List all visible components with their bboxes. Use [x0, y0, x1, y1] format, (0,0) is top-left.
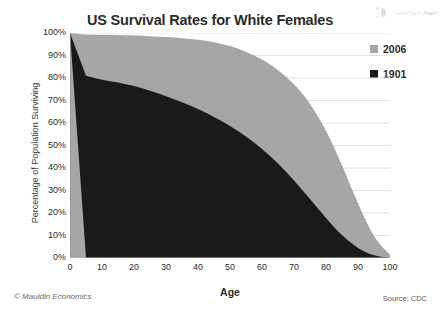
y-tick-label: 70%	[26, 96, 66, 105]
logo-text: TransTech Alert	[392, 10, 437, 16]
y-tick-label: 20%	[26, 208, 66, 217]
x-tick-label: 20	[129, 263, 139, 272]
x-tick-label: 10	[97, 263, 107, 272]
logo-mark-icon	[376, 6, 389, 19]
x-tick-label: 0	[67, 263, 72, 272]
x-tick-label: 40	[193, 263, 203, 272]
x-tick-label: 30	[161, 263, 171, 272]
chart-figure: US Survival Rates for White Females Tran…	[0, 0, 441, 314]
x-tick-label: 70	[289, 263, 299, 272]
area-chart-svg	[70, 33, 390, 258]
x-tick-label: 60	[257, 263, 267, 272]
x-tick-label: 90	[353, 263, 363, 272]
y-tick-label: 90%	[26, 51, 66, 60]
copyright-credit: © Mauldin Economics	[14, 292, 91, 301]
x-tick-label: 100	[382, 263, 397, 272]
y-tick-label: 60%	[26, 118, 66, 127]
x-axis-title: Age	[70, 286, 390, 298]
y-tick-label: 40%	[26, 163, 66, 172]
y-tick-label: 0%	[26, 253, 66, 262]
y-tick-label: 10%	[26, 231, 66, 240]
y-tick-label: 50%	[26, 141, 66, 150]
x-tick-label: 80	[321, 263, 331, 272]
x-axis-ticks: 0102030405060708090100	[70, 263, 390, 277]
y-tick-label: 80%	[26, 73, 66, 82]
chart-title: US Survival Rates for White Females	[60, 12, 360, 28]
logo-text-light: TransTech	[392, 10, 421, 16]
x-tick-label: 50	[225, 263, 235, 272]
transtech-alert-logo: TransTech Alert	[376, 6, 437, 19]
source-credit: Source: CDC	[383, 294, 427, 303]
y-tick-label: 30%	[26, 186, 66, 195]
logo-text-bold: Alert	[423, 10, 437, 16]
y-axis-ticks: 100%90%80%70%60%50%40%30%20%10%0%	[20, 33, 66, 258]
plot-area	[70, 33, 390, 258]
y-tick-label: 100%	[26, 28, 66, 37]
